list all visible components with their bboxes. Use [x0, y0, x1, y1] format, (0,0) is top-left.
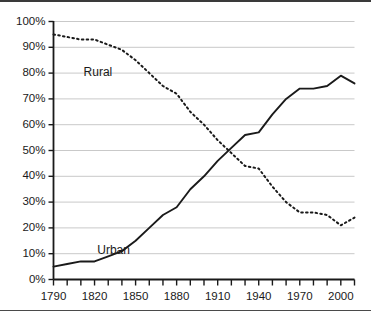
y-tick-label-10: 10%	[22, 248, 45, 260]
series-line-rural	[54, 34, 355, 225]
x-tick-label-2000: 2000	[316, 291, 366, 303]
y-tick-label-30: 30%	[22, 196, 45, 208]
y-tick-label-0: 0%	[29, 274, 46, 286]
y-tick-label-50: 50%	[22, 145, 45, 157]
y-tick-label-20: 20%	[22, 222, 45, 234]
gridlines	[54, 22, 355, 254]
series-label-rural: Rural	[84, 66, 113, 78]
series-line-urban	[54, 76, 355, 267]
y-tick-label-40: 40%	[22, 170, 45, 182]
y-tick-label-70: 70%	[22, 93, 45, 105]
series-label-urban: Urban	[97, 244, 130, 256]
y-tick-label-100: 100%	[16, 16, 45, 28]
y-tick-label-80: 80%	[22, 67, 45, 79]
y-tick-label-90: 90%	[22, 41, 45, 53]
urban-rural-line-chart	[0, 0, 371, 318]
chart-figure: 0%10%20%30%40%50%60%70%80%90%100% 179018…	[0, 0, 371, 318]
y-tick-label-60: 60%	[22, 119, 45, 131]
